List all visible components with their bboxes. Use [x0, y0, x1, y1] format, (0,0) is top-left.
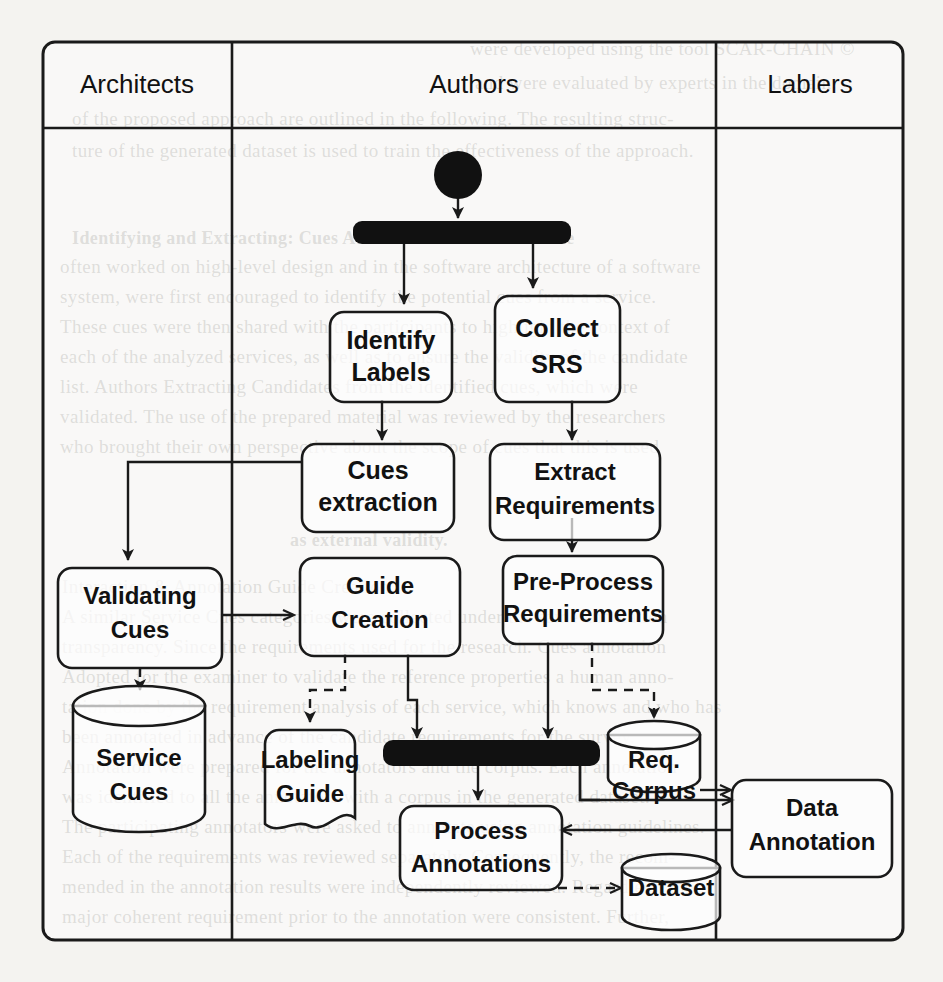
- action-extract-requirements[interactable]: Extract Requirements: [490, 444, 660, 540]
- action-process-annotations-label-line2: Annotations: [411, 850, 551, 877]
- join-bar-shape[interactable]: [383, 740, 600, 766]
- action-collect-srs-label-line1: Collect: [515, 314, 599, 342]
- action-identify-labels-label-line1: Identify: [347, 326, 436, 354]
- action-identify-labels[interactable]: Identify Labels: [330, 312, 452, 402]
- datastore-service-cues-top: [73, 686, 205, 726]
- datastore-service-cues-label-line2: Cues: [110, 778, 169, 805]
- initial-node-circle[interactable]: [434, 151, 482, 199]
- action-collect-srs-label-line2: SRS: [531, 350, 582, 378]
- action-identify-labels-label-line2: Labels: [351, 358, 430, 386]
- lane-header-architects: Architects: [80, 69, 194, 99]
- action-guide-creation[interactable]: Guide Creation: [300, 558, 460, 656]
- datastore-req-corpus[interactable]: Req. Corpus: [608, 721, 700, 804]
- action-validating-cues[interactable]: Validating Cues: [58, 568, 222, 668]
- lane-header-lablers: Lablers: [767, 69, 852, 99]
- action-data-annotation[interactable]: Data Annotation: [732, 780, 892, 877]
- lane-header-authors: Authors: [429, 69, 519, 99]
- action-cues-extraction-label-line2: extraction: [318, 488, 437, 516]
- action-data-annotation-label-line2: Annotation: [749, 828, 876, 855]
- action-extract-requirements-label-line2: Requirements: [495, 492, 655, 519]
- datastore-dataset[interactable]: Dataset: [622, 854, 720, 930]
- document-labeling-guide-label-line1: Labeling: [261, 746, 360, 773]
- datastore-req-corpus-label-line2: Corpus: [612, 777, 696, 804]
- document-labeling-guide-label-line2: Guide: [276, 780, 344, 807]
- action-data-annotation-label-line1: Data: [786, 794, 839, 821]
- action-guide-creation-label-line2: Creation: [331, 606, 428, 633]
- datastore-req-corpus-label-line1: Req.: [628, 746, 680, 773]
- action-cues-extraction-label-line1: Cues: [347, 456, 408, 484]
- action-validating-cues-label-line1: Validating: [83, 582, 196, 609]
- initial-node[interactable]: [434, 151, 482, 199]
- activity-diagram-canvas: Architects Authors Lablers: [0, 0, 943, 982]
- action-pre-process-requirements[interactable]: Pre-Process Requirements: [503, 556, 663, 644]
- datastore-service-cues[interactable]: Service Cues: [73, 686, 205, 832]
- action-process-annotations[interactable]: Process Annotations: [400, 806, 562, 890]
- fork-bar-shape[interactable]: [353, 221, 571, 244]
- fork-bar[interactable]: [353, 221, 571, 244]
- document-labeling-guide[interactable]: Labeling Guide: [261, 730, 360, 828]
- action-pre-process-requirements-label-line2: Requirements: [503, 600, 663, 627]
- action-process-annotations-label-line1: Process: [434, 817, 527, 844]
- action-validating-cues-label-line2: Cues: [111, 616, 170, 643]
- action-extract-requirements-label-line1: Extract: [534, 458, 615, 485]
- action-cues-extraction[interactable]: Cues extraction: [302, 444, 454, 532]
- datastore-service-cues-label-line1: Service: [96, 744, 181, 771]
- datastore-req-corpus-top: [608, 721, 700, 749]
- action-pre-process-requirements-label-line1: Pre-Process: [513, 568, 653, 595]
- datastore-dataset-label: Dataset: [628, 874, 715, 901]
- action-collect-srs[interactable]: Collect SRS: [495, 296, 620, 402]
- document-labeling-guide-shape[interactable]: [265, 730, 355, 828]
- join-bar[interactable]: [383, 740, 600, 766]
- action-guide-creation-label-line1: Guide: [346, 572, 414, 599]
